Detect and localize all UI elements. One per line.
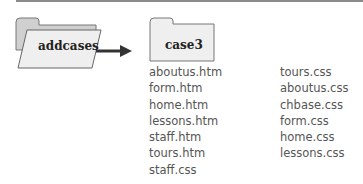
file-list-column-2: tours.css aboutus.css chbase.css form.cs…	[280, 64, 348, 162]
file-item: home.css	[280, 129, 348, 145]
file-item: tours.css	[280, 64, 348, 80]
file-item: tours.htm	[149, 145, 222, 161]
file-item: form.htm	[149, 80, 222, 96]
file-list-column-1: aboutus.htm form.htm home.htm lessons.ht…	[149, 64, 222, 178]
file-item: staff.htm	[149, 129, 222, 145]
file-item: home.htm	[149, 97, 222, 113]
file-item: aboutus.htm	[149, 64, 222, 80]
arrow-head-icon	[120, 45, 132, 57]
addcases-folder-label: addcases	[38, 39, 99, 53]
file-item: lessons.htm	[149, 113, 222, 129]
file-item: aboutus.css	[280, 80, 348, 96]
file-item: staff.css	[149, 162, 222, 178]
file-item: chbase.css	[280, 97, 348, 113]
file-item: form.css	[280, 113, 348, 129]
case3-folder-label: case3	[165, 38, 203, 52]
file-item: lessons.css	[280, 145, 348, 161]
